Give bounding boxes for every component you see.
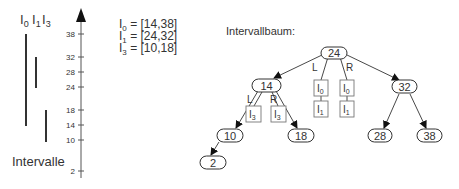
root-left-list-i0: I0 bbox=[314, 80, 328, 96]
tick-24: 24 bbox=[66, 83, 75, 92]
interval-tree: Intervallbaum: L R L R 24 14 bbox=[200, 25, 442, 169]
svg-text:14: 14 bbox=[260, 80, 272, 92]
root-right-list-i0: I0 bbox=[340, 80, 354, 96]
legend-i3: I3 = [10,18] bbox=[119, 41, 177, 57]
n14-left-list-i3: I3 bbox=[246, 106, 261, 122]
tree-node-28: 28 bbox=[368, 129, 392, 142]
tick-38: 38 bbox=[66, 30, 75, 39]
tick-14: 14 bbox=[66, 121, 75, 130]
svg-text:32: 32 bbox=[398, 81, 410, 93]
root-right-list-i1: I1 bbox=[340, 101, 354, 117]
tree-node-14: 14 bbox=[252, 79, 281, 92]
svg-text:10: 10 bbox=[224, 130, 236, 142]
svg-text:18: 18 bbox=[295, 130, 307, 142]
tree-node-2: 2 bbox=[200, 156, 226, 169]
number-axis: 38 32 28 24 18 14 10 2 bbox=[66, 8, 86, 178]
tick-32: 32 bbox=[66, 53, 75, 62]
tree-node-38: 38 bbox=[417, 129, 442, 142]
svg-text:38: 38 bbox=[423, 130, 435, 142]
svg-text:2: 2 bbox=[210, 157, 216, 169]
interval-header-i1: I1 bbox=[32, 12, 41, 29]
root-right-label: R bbox=[346, 62, 353, 73]
svg-text:24: 24 bbox=[328, 47, 340, 59]
root-left-label: L bbox=[312, 62, 318, 73]
n14-right-label: R bbox=[270, 94, 277, 105]
intervals-caption: Intervalle bbox=[12, 154, 65, 169]
tree-title: Intervallbaum: bbox=[226, 25, 295, 37]
interval-tree-diagram: I0 I1 I3 Intervalle 38 32 28 24 18 14 10… bbox=[0, 0, 459, 189]
n14-left-label: L bbox=[247, 94, 253, 105]
root-left-list-i1: I1 bbox=[314, 101, 328, 117]
tick-10: 10 bbox=[66, 136, 75, 145]
tick-28: 28 bbox=[66, 68, 75, 77]
tick-2: 2 bbox=[71, 167, 76, 176]
interval-legend: I0 = [14,38] I1 = [24,32] I3 = [10,18] bbox=[119, 17, 177, 57]
tree-node-10: 10 bbox=[217, 129, 243, 142]
tree-node-32: 32 bbox=[392, 80, 417, 93]
n14-right-list-i3: I3 bbox=[271, 106, 286, 122]
tree-node-18: 18 bbox=[288, 129, 314, 142]
interval-header-i0: I0 bbox=[20, 12, 29, 29]
axis-arrow-icon bbox=[76, 8, 86, 22]
tick-18: 18 bbox=[66, 106, 75, 115]
interval-header-i3: I3 bbox=[42, 12, 51, 29]
svg-text:28: 28 bbox=[374, 130, 386, 142]
tree-node-24: 24 bbox=[321, 47, 347, 59]
intervals-panel: I0 I1 I3 Intervalle bbox=[12, 12, 65, 169]
